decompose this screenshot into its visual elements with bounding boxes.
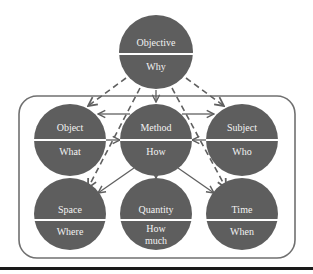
bottom-rule	[0, 267, 313, 270]
node-space-label: Space	[58, 204, 82, 215]
node-object-question: What	[59, 146, 81, 157]
node-quantity-label: Quantity	[139, 204, 174, 215]
node-objective: Objective Why	[119, 15, 193, 89]
node-subject-label: Subject	[227, 122, 257, 133]
edge-method-time	[178, 168, 214, 193]
node-method-label: Method	[140, 122, 171, 133]
node-subject-question: Who	[232, 146, 251, 157]
node-quantity-question-line2: much	[145, 235, 167, 246]
node-object: Object What	[34, 104, 106, 176]
edge-objective-subject	[186, 78, 224, 106]
diagram-canvas: Objective Why Object What Method How Sub…	[0, 0, 313, 274]
node-quantity-question-line1: How	[146, 223, 166, 234]
node-objective-question: Why	[146, 61, 165, 72]
edge-objective-object	[88, 78, 126, 106]
node-method-question: How	[146, 146, 166, 157]
node-subject: Subject Who	[206, 104, 278, 176]
node-objective-label: Objective	[137, 37, 176, 48]
node-space: Space Where	[34, 178, 106, 250]
node-method: Method How	[120, 104, 192, 176]
edge-method-space	[98, 168, 134, 193]
node-time: Time When	[206, 178, 278, 250]
node-quantity: Quantity How much	[120, 178, 192, 250]
node-time-label: Time	[232, 204, 253, 215]
node-object-label: Object	[57, 122, 84, 133]
node-space-question: Where	[57, 226, 84, 237]
node-time-question: When	[230, 226, 254, 237]
